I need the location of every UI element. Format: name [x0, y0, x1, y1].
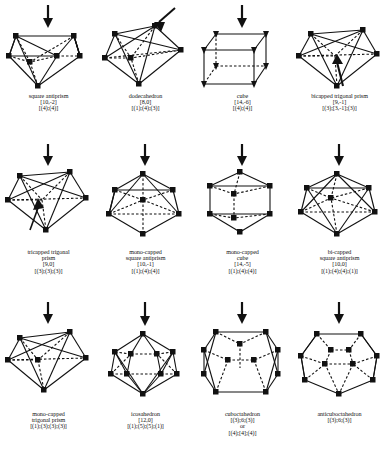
- polyhedron-caption: mono-capped square antiprism [10,-1] [(1…: [126, 249, 166, 274]
- polyhedron-cell-anticuboctahedron: anticuboctahedron [(3);6;(3)]: [291, 298, 388, 458]
- cuboctahedron-drawing: [194, 298, 291, 410]
- polyhedron-cell-cuboctahedron: cuboctahedron [(3);6;(3)] or [(4);[4];(4…: [194, 298, 291, 458]
- polyhedron-decomposition-alt: [(4);[4];(4)]: [225, 430, 260, 436]
- polyhedron-decomposition: [(1);(3);(3);(3)]: [30, 423, 67, 429]
- polyhedron-cell-bi-capped-square-antiprism: bi-capped square antiprism [10,0] [(1);(…: [291, 140, 388, 298]
- polyhedron-caption: anticuboctahedron [(3);6;(3)]: [317, 411, 361, 423]
- polyhedron-caption: bi-capped square antiprism [10,0] [(1);(…: [320, 249, 360, 274]
- polyhedron-cell-icosahedron: icosahedron [12,0] [(1);(5);(5);(1)]: [97, 298, 194, 458]
- mono-capped-trigonal-prism-drawing: [0, 298, 97, 410]
- polyhedron-caption: icosahedron [12,0] [(1);(5);(5);(1)]: [127, 411, 164, 430]
- polyhedron-caption: cuboctahedron [(3);6;(3)] or [(4);[4];(4…: [225, 411, 260, 436]
- anticuboctahedron-drawing: [291, 298, 388, 410]
- polyhedron-cell-bicapped-trigonal-prism: bicapped trigonal prism [9,-1] [(3);[3,-…: [291, 0, 388, 140]
- cube-drawing: [194, 0, 291, 92]
- polyhedron-caption: mono-capped cube [14,-5] [(1);(4);(4)]: [226, 249, 259, 274]
- polyhedron-decomposition: [(1);(5);(5);(1)]: [127, 423, 164, 429]
- polyhedra-grid: square antiprism [10,-2] [(4);(4)]: [0, 0, 388, 458]
- bicapped-trigonal-prism-drawing: [291, 0, 388, 92]
- polyhedron-caption: tricapped trigonal prism [9,0] [(3);(3);…: [27, 249, 69, 274]
- mono-capped-square-antiprism-drawing: [97, 140, 194, 248]
- polyhedron-cell-mono-capped-trigonal-prism: mono-capped trigonal prism [(1);(3);(3);…: [0, 298, 97, 458]
- polyhedron-cell-mono-capped-cube: mono-capped cube [14,-5] [(1);(4);(4)]: [194, 140, 291, 298]
- polyhedron-decomposition: [(1);(4);(4);(1)]: [320, 268, 360, 274]
- tricapped-trigonal-prism-drawing: [0, 140, 97, 248]
- polyhedron-decomposition: [(1);(4);(4)]: [126, 268, 166, 274]
- icosahedron-drawing: [97, 298, 194, 410]
- mono-capped-cube-drawing: [194, 140, 291, 248]
- polyhedron-cell-tricapped-trigonal-prism: tricapped trigonal prism [9,0] [(3);(3);…: [0, 140, 97, 298]
- polyhedron-code: [(3);6;(3)]: [317, 417, 361, 423]
- polyhedron-decomposition: [(1);(4);(3)]: [129, 105, 163, 111]
- dodecahedron-drawing: [97, 0, 194, 92]
- polyhedron-cell-dodecahedron: dodecahedron [8,0] [(1);(4);(3)]: [97, 0, 194, 140]
- polyhedron-caption: cube [14,-6] [(4);(4)]: [233, 93, 253, 112]
- polyhedra-figure: square antiprism [10,-2] [(4);(4)]: [0, 0, 388, 458]
- polyhedron-cell-square-antiprism: square antiprism [10,-2] [(4);(4)]: [0, 0, 97, 140]
- polyhedron-decomposition: [(3);(3);(3)]: [27, 268, 69, 274]
- bi-capped-square-antiprism-drawing: [291, 140, 388, 248]
- square-antiprism-drawing: [0, 0, 97, 92]
- polyhedron-decomposition: [(1);(4);(4)]: [226, 268, 259, 274]
- polyhedron-decomposition: [(3);[3,-1];(3)]: [311, 105, 368, 111]
- polyhedron-decomposition: [(4);(4)]: [233, 105, 253, 111]
- polyhedron-cell-cube: cube [14,-6] [(4);(4)]: [194, 0, 291, 140]
- polyhedron-caption: dodecahedron [8,0] [(1);(4);(3)]: [129, 93, 163, 112]
- polyhedron-decomposition: [(4);(4)]: [29, 105, 69, 111]
- polyhedron-caption: mono-capped trigonal prism [(1);(3);(3);…: [30, 411, 67, 430]
- polyhedron-caption: square antiprism [10,-2] [(4);(4)]: [29, 93, 69, 112]
- polyhedron-caption: bicapped trigonal prism [9,-1] [(3);[3,-…: [311, 93, 368, 112]
- polyhedron-cell-mono-capped-square-antiprism: mono-capped square antiprism [10,-1] [(1…: [97, 140, 194, 298]
